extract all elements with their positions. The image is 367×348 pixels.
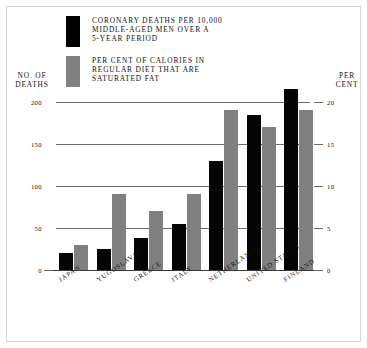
bar-group [172,102,201,270]
bar-group [209,102,238,270]
y-axis-title-right: PER CENT [330,72,364,89]
y-tick-label-left: 200 [20,99,42,106]
bar-saturated-fat [299,110,313,270]
y-tick-label-right: 20 [327,99,349,106]
y-tick-mark-right [314,144,323,145]
plot-area [56,102,310,270]
legend-swatch-gray [66,56,80,87]
chart-legend: CORONARY DEATHS PER 10,000 MIDDLE-AGED M… [66,16,296,96]
y-tick-label-right: 15 [327,141,349,148]
legend-label-saturated-fat: PER CENT OF CALORIES IN REGULAR DIET THA… [92,56,205,83]
bar-coronary-deaths [209,161,223,270]
legend-label-coronary-deaths: CORONARY DEATHS PER 10,000 MIDDLE-AGED M… [92,16,223,43]
y-axis-title-left-line2: DEATHS [4,81,60,90]
bar-saturated-fat [187,194,201,270]
y-tick-label-left: 50 [20,225,42,232]
bar-group [134,102,163,270]
bar-coronary-deaths [172,224,186,270]
chart-container: CORONARY DEATHS PER 10,000 MIDDLE-AGED M… [0,0,367,348]
y-tick-mark-right [314,186,323,187]
y-tick-mark-right [314,102,323,103]
legend-swatch-black [66,16,80,47]
y-tick-mark-right [314,228,323,229]
legend-line: SATURATED FAT [92,75,205,84]
y-tick-mark-left [44,270,53,271]
bar-group [97,102,126,270]
y-tick-label-left: 0 [20,267,42,274]
y-tick-label-right: 10 [327,183,349,190]
y-tick-label-right: 5 [327,225,349,232]
bar-saturated-fat [224,110,238,270]
bar-saturated-fat [262,127,276,270]
y-axis-title-right-line2: CENT [330,81,364,90]
bar-group [247,102,276,270]
legend-item-saturated-fat: PER CENT OF CALORIES IN REGULAR DIET THA… [66,56,296,87]
y-axis-title-left: NO. OF DEATHS [4,72,60,89]
y-tick-mark-right [314,270,323,271]
legend-line: 5-YEAR PERIOD [92,35,223,44]
bar-group [59,102,88,270]
legend-item-coronary-deaths: CORONARY DEATHS PER 10,000 MIDDLE-AGED M… [66,16,296,47]
y-tick-label-left: 150 [20,141,42,148]
bar-series-group [56,102,310,270]
y-tick-label-left: 100 [20,183,42,190]
y-tick-label-right: 0 [327,267,349,274]
